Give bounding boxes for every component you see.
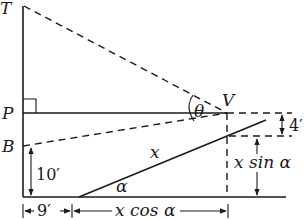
label-V: V <box>222 90 236 110</box>
label-x: x <box>150 142 160 162</box>
label-alpha: α <box>116 176 128 196</box>
label-theta: θ <box>194 101 204 121</box>
label-T: T <box>0 0 13 18</box>
label-P: P <box>1 103 14 123</box>
label-10ft: 10′ <box>36 165 60 184</box>
label-B: B <box>1 136 15 156</box>
label-x-cos-alpha: x cos α <box>115 200 176 220</box>
label-4ft: 4′ <box>289 116 303 135</box>
geometry-diagram: T P B V θ x α 10′ 4′ x sin α 9′ x cos α <box>0 0 308 220</box>
label-x-sin-alpha: x sin α <box>234 152 292 172</box>
sightline-T-V <box>24 6 227 113</box>
label-9ft: 9′ <box>37 201 51 220</box>
right-angle-marker <box>23 99 36 113</box>
